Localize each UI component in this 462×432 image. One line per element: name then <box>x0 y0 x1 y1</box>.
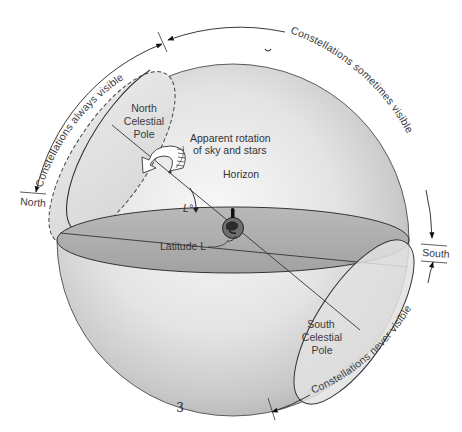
celestial-sphere-diagram: North Celestial Pole Apparent rotation o… <box>0 0 462 432</box>
rotation-label: Apparent rotation of sky and stars <box>190 132 271 156</box>
svg-text:North: North <box>20 195 47 209</box>
svg-text:Pole: Pole <box>311 344 332 356</box>
horizon-label: Horizon <box>223 168 259 180</box>
small-mark <box>265 49 271 51</box>
svg-text:Apparent rotation: Apparent rotation <box>190 132 271 144</box>
svg-text:Pole: Pole <box>133 128 154 140</box>
svg-text:South: South <box>307 318 335 330</box>
svg-text:Latitude L: Latitude L <box>160 240 206 252</box>
svg-text:North: North <box>131 102 157 114</box>
svg-text:Celestial: Celestial <box>302 331 342 343</box>
svg-text:of sky and stars: of sky and stars <box>193 144 267 156</box>
south-direction-label: South <box>421 244 450 263</box>
page-number: 3 <box>176 401 184 415</box>
north-direction-label: North <box>20 192 47 209</box>
latitude-angle-label: L° <box>183 202 193 214</box>
svg-text:South: South <box>422 246 450 260</box>
svg-text:Celestial: Celestial <box>124 115 164 127</box>
